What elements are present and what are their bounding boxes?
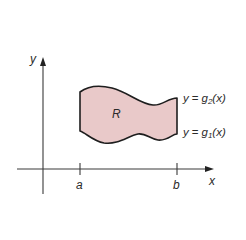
upper-curve-arg: (x) [212, 92, 225, 104]
region-label: R [112, 108, 121, 120]
lower-curve-arg: (x) [212, 126, 225, 138]
x-axis-label: x [209, 175, 215, 187]
upper-curve-label: y=g2(x) [183, 93, 226, 106]
lower-curve-prefix: y [183, 126, 189, 138]
lower-curve-equals: = [189, 126, 202, 138]
region-r [80, 86, 177, 143]
y-axis-label: y [30, 53, 36, 65]
x-axis-arrow-icon [205, 166, 214, 172]
lower-curve-label: y=g1(x) [183, 127, 226, 140]
upper-curve-prefix: y [183, 92, 189, 104]
y-axis-arrow-icon [40, 57, 46, 66]
tick-b-label: b [173, 179, 180, 191]
tick-a-label: a [76, 179, 83, 191]
upper-curve-equals: = [189, 92, 202, 104]
